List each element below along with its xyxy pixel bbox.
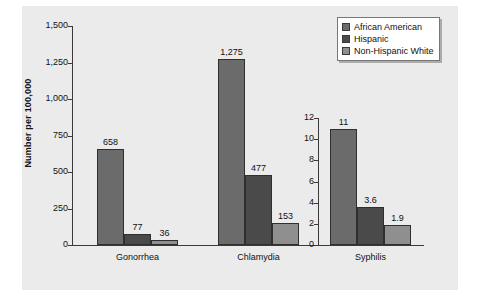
- secondary-tick-mark: [314, 224, 318, 225]
- bar: [218, 59, 245, 245]
- primary-tick-label: 250: [0, 203, 68, 213]
- primary-tick-label: 1,000: [0, 93, 68, 103]
- bar-value-label: 658: [87, 137, 134, 147]
- primary-tick-label: 1,500: [0, 20, 68, 30]
- secondary-tick-mark: [314, 182, 318, 183]
- bar-value-label: 36: [141, 228, 188, 238]
- category-label: Chlamydia: [198, 252, 319, 262]
- legend-swatch: [342, 23, 350, 31]
- secondary-tick-mark: [314, 139, 318, 140]
- secondary-tick-label: 8: [288, 154, 314, 164]
- secondary-tick-label: 12: [288, 112, 314, 122]
- secondary-tick-label: 6: [288, 176, 314, 186]
- primary-tick-mark: [68, 99, 72, 100]
- secondary-tick-label: 4: [288, 197, 314, 207]
- bar: [330, 129, 357, 245]
- primary-tick-mark: [68, 172, 72, 173]
- bar: [272, 223, 299, 245]
- primary-tick-label: 0: [0, 239, 68, 249]
- chart-legend: African AmericanHispanicNon-Hispanic Whi…: [337, 17, 440, 61]
- legend-label: African American: [354, 22, 422, 32]
- primary-tick-label: 500: [0, 166, 68, 176]
- legend-item: African American: [342, 21, 434, 33]
- primary-tick-mark: [68, 245, 72, 246]
- category-label: Gonorrhea: [77, 252, 198, 262]
- primary-tick-mark: [68, 26, 72, 27]
- bar-value-label: 153: [262, 211, 309, 221]
- secondary-tick-mark: [314, 160, 318, 161]
- legend-item: Hispanic: [342, 33, 434, 45]
- bar-value-label: 1.9: [374, 213, 421, 223]
- secondary-tick-mark: [314, 118, 318, 119]
- primary-tick-label: 1,250: [0, 57, 68, 67]
- legend-label: Non-Hispanic White: [354, 46, 434, 56]
- bar: [151, 240, 178, 245]
- bar-value-label: 1,275: [208, 47, 255, 57]
- secondary-y-axis-line: [318, 118, 319, 245]
- primary-tick-mark: [68, 209, 72, 210]
- primary-y-axis-line: [72, 26, 73, 245]
- category-label: Syphilis: [310, 252, 431, 262]
- legend-swatch: [342, 47, 350, 55]
- primary-tick-mark: [68, 63, 72, 64]
- secondary-tick-mark: [314, 245, 318, 246]
- chart-figure: Number per 100,000 02505007501,0001,2501…: [0, 0, 480, 302]
- primary-tick-label: 750: [0, 130, 68, 140]
- bar-value-label: 3.6: [347, 195, 394, 205]
- secondary-tick-label: 10: [288, 133, 314, 143]
- legend-item: Non-Hispanic White: [342, 45, 434, 57]
- bar: [384, 225, 411, 245]
- x-axis-baseline: [72, 245, 424, 246]
- legend-label: Hispanic: [354, 34, 389, 44]
- bar-value-label: 477: [235, 163, 282, 173]
- primary-tick-mark: [68, 136, 72, 137]
- legend-swatch: [342, 35, 350, 43]
- bar-value-label: 11: [320, 117, 367, 127]
- secondary-tick-mark: [314, 203, 318, 204]
